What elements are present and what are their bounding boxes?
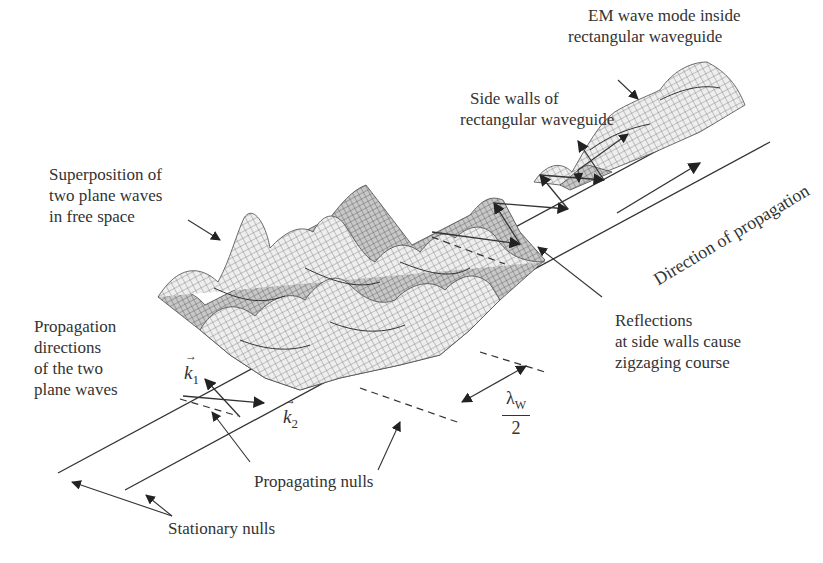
stationary-nulls-leader-b	[146, 495, 172, 516]
label-propagation-directions: Propagation directions of the two plane …	[34, 316, 118, 400]
label-k1: k1	[184, 362, 199, 388]
label-line: EM wave mode inside	[588, 5, 741, 26]
label-line: zigzaging course	[615, 352, 741, 373]
label-stationary-nulls: Stationary nulls	[168, 518, 275, 539]
reflections-leader	[538, 247, 602, 297]
k1-subscript: 1	[192, 372, 199, 387]
label-propagating-nulls: Propagating nulls	[254, 471, 373, 492]
fraction-denominator: 2	[502, 416, 530, 439]
label-superposition: Superposition of two plane waves in free…	[49, 164, 162, 227]
em-mode-leader	[618, 80, 638, 99]
label-line: at side walls cause	[615, 331, 741, 352]
label-line: directions	[34, 337, 118, 358]
waveguide-diagram	[0, 0, 823, 563]
label-k2: k2	[283, 406, 298, 432]
label-line: in free space	[49, 206, 162, 227]
propagating-nulls-leader-b	[378, 422, 400, 470]
lambda-symbol: λ	[506, 388, 515, 408]
superposition-leader	[188, 220, 220, 240]
k2-subscript: 2	[291, 416, 298, 431]
label-line: rectangular waveguide	[568, 26, 741, 47]
free-space-wave-surface	[158, 185, 545, 390]
k1-symbol: k	[184, 362, 192, 384]
k2-symbol: k	[283, 406, 291, 428]
label-half-wavelength: λW 2	[502, 388, 530, 439]
label-line: Superposition of	[49, 164, 162, 185]
label-line: Side walls of	[470, 88, 614, 109]
label-line: Propagation	[34, 316, 118, 337]
direction-arrow	[617, 163, 700, 213]
label-line: rectangular waveguide	[460, 109, 614, 130]
stationary-nulls-leader-a	[72, 482, 172, 516]
label-em-wave-mode: EM wave mode inside rectangular waveguid…	[588, 5, 741, 47]
label-line: Reflections	[615, 310, 741, 331]
label-side-walls: Side walls of rectangular waveguide	[470, 88, 614, 130]
label-line: plane waves	[34, 379, 118, 400]
label-reflections: Reflections at side walls cause zigzagin…	[615, 310, 741, 373]
label-line: two plane waves	[49, 185, 162, 206]
fraction-numerator: λW	[502, 388, 530, 416]
label-line: of the two	[34, 358, 118, 379]
propagating-nulls-leader-a	[212, 412, 250, 462]
lambda-subscript: W	[515, 398, 526, 412]
